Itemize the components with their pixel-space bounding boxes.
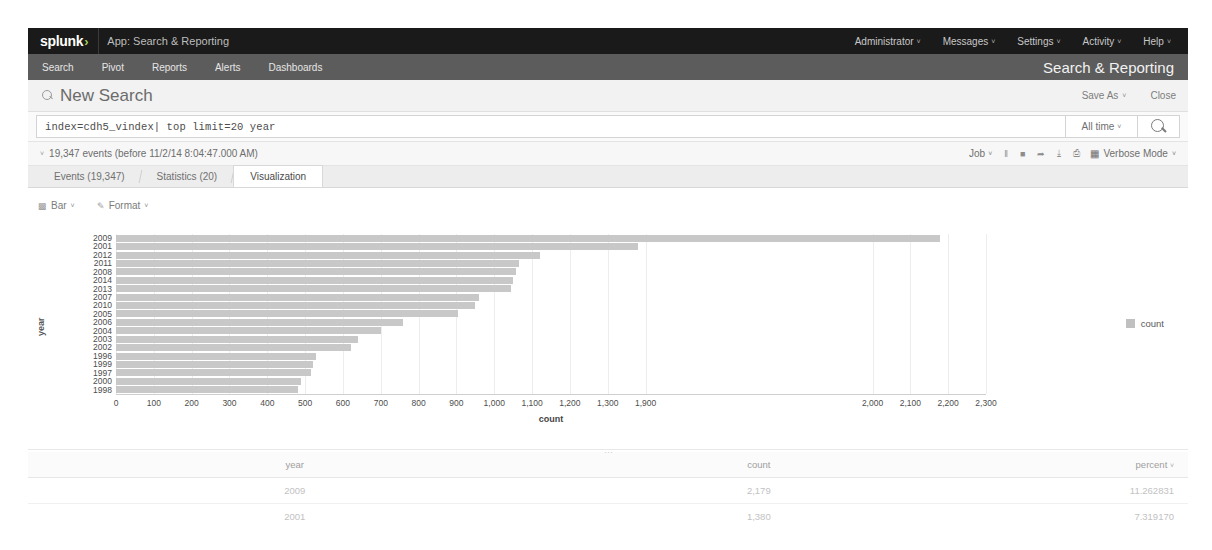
bar[interactable]: [116, 277, 513, 284]
x-axis-tick: 1,200: [559, 398, 580, 408]
nav-messages-label: Messages: [943, 36, 989, 47]
column-header-percent[interactable]: percent ˅: [956, 452, 1188, 478]
x-axis-tick: 800: [412, 398, 426, 408]
resize-handle[interactable]: ⋯: [604, 452, 613, 458]
bar-row: [116, 369, 986, 377]
chevron-down-icon: ˅: [1170, 462, 1174, 469]
bar[interactable]: [116, 361, 313, 368]
bar[interactable]: [116, 252, 540, 259]
bar[interactable]: [116, 369, 311, 376]
close-label: Close: [1150, 90, 1176, 101]
chevron-down-icon: ˅: [71, 202, 75, 209]
tab-visualization[interactable]: Visualization: [233, 165, 323, 187]
bar[interactable]: [116, 260, 519, 267]
bar[interactable]: [116, 294, 479, 301]
time-range-picker[interactable]: All time ˅: [1066, 115, 1138, 138]
bar-row: [116, 377, 986, 385]
subnav-item-pivot[interactable]: Pivot: [88, 54, 138, 80]
x-axis-tick: 1,900: [635, 398, 656, 408]
job-menu-button[interactable]: Job ˅: [969, 148, 992, 159]
cell-year: 2001: [28, 504, 562, 523]
event-count-text: 19,347 events (before 11/2/14 8:04:47.00…: [49, 148, 258, 159]
app-title: Search & Reporting: [1043, 59, 1188, 76]
bar[interactable]: [116, 319, 403, 326]
chart-type-label: Bar: [51, 200, 67, 211]
app-bar: splunk › App: Search & Reporting Adminis…: [28, 28, 1188, 54]
nav-administrator[interactable]: Administrator ˅: [844, 28, 932, 54]
bar-row: [116, 234, 986, 242]
splunk-search-page: splunk › App: Search & Reporting Adminis…: [0, 0, 1212, 550]
app-name-label[interactable]: App: Search & Reporting: [98, 28, 239, 54]
table-body: 20092,17911.26283120011,3807.319170: [28, 478, 1188, 523]
splunk-logo[interactable]: splunk ›: [28, 33, 98, 49]
chart-legend: count: [1126, 318, 1164, 329]
chevron-down-icon: ˅: [988, 150, 992, 157]
collapse-caret-icon[interactable]: ˅: [40, 150, 44, 157]
cell-percent: 7.319170: [956, 504, 1188, 523]
x-axis-tick: 400: [260, 398, 274, 408]
bar-row: [116, 276, 986, 284]
x-axis-tick: 1,000: [484, 398, 505, 408]
bar[interactable]: [116, 302, 475, 309]
column-header-year[interactable]: year: [28, 452, 562, 478]
close-button[interactable]: Close: [1138, 90, 1188, 101]
bar[interactable]: [116, 285, 511, 292]
export-icon[interactable]: ⤓: [1057, 148, 1061, 159]
logo-caret-icon: ›: [84, 34, 88, 49]
bar-row: [116, 293, 986, 301]
save-as-button[interactable]: Save As ˅: [1070, 90, 1139, 101]
x-axis-tick: 600: [336, 398, 350, 408]
job-label: Job: [969, 148, 985, 159]
grid-icon: ▦: [1090, 148, 1099, 159]
bar[interactable]: [116, 336, 358, 343]
search-bar-row: index=cdh5_vindex| top limit=20 year All…: [28, 112, 1188, 142]
results-tabs: Events (19,347) Statistics (20) Visualiz…: [28, 166, 1188, 188]
tab-statistics[interactable]: Statistics (20): [141, 166, 234, 187]
x-axis-tick-labels: 01002003004005006007008009001,0001,1001,…: [116, 398, 986, 410]
legend-swatch: [1126, 319, 1135, 328]
pause-icon[interactable]: ‖: [1004, 149, 1008, 159]
nav-settings[interactable]: Settings ˅: [1006, 28, 1071, 54]
bar[interactable]: [116, 344, 351, 351]
logo-text: splunk: [40, 33, 83, 49]
x-axis-tick: 1,100: [521, 398, 542, 408]
x-axis-tick: 0: [114, 398, 119, 408]
chart-format-button[interactable]: ✎ Format ˅: [97, 200, 149, 211]
chevron-down-icon: ˅: [1167, 38, 1171, 45]
search-query-input[interactable]: index=cdh5_vindex| top limit=20 year: [36, 115, 1066, 138]
x-axis-tick: 900: [449, 398, 463, 408]
table-row[interactable]: 20011,3807.319170: [28, 504, 1188, 523]
bar-row: [116, 335, 986, 343]
subnav-item-alerts[interactable]: Alerts: [201, 54, 255, 80]
run-search-button[interactable]: [1138, 115, 1180, 138]
subnav-item-search[interactable]: Search: [28, 54, 88, 80]
bar[interactable]: [116, 310, 458, 317]
table-row[interactable]: 20092,17911.262831: [28, 478, 1188, 504]
nav-activity[interactable]: Activity ˅: [1072, 28, 1133, 54]
bar[interactable]: [116, 353, 316, 360]
x-axis-tick: 700: [374, 398, 388, 408]
bar-series: [116, 234, 986, 394]
search-mode-button[interactable]: ▦ Verbose Mode ˅: [1090, 148, 1188, 159]
y-axis-tick-labels: 2009200120122011200820142013200720102005…: [56, 234, 112, 394]
nav-activity-label: Activity: [1083, 36, 1115, 47]
chevron-down-icon: ˅: [991, 38, 995, 45]
share-icon[interactable]: ➦: [1037, 149, 1045, 159]
subnav-item-dashboards[interactable]: Dashboards: [255, 54, 337, 80]
bar[interactable]: [116, 235, 940, 242]
stop-icon[interactable]: ■: [1020, 149, 1025, 159]
subnav-item-reports[interactable]: Reports: [138, 54, 201, 80]
chart-type-button[interactable]: ▩ Bar ˅: [38, 200, 75, 211]
bar[interactable]: [116, 327, 381, 334]
bar[interactable]: [116, 243, 638, 250]
chevron-down-icon: ˅: [917, 38, 921, 45]
print-icon[interactable]: ⎙: [1073, 148, 1080, 159]
bar[interactable]: [116, 268, 516, 275]
search-icon: [1151, 119, 1166, 134]
tab-events[interactable]: Events (19,347): [38, 166, 141, 187]
bar[interactable]: [116, 378, 301, 385]
column-header-count[interactable]: count: [562, 452, 956, 478]
bar[interactable]: [116, 386, 298, 393]
nav-messages[interactable]: Messages ˅: [932, 28, 1007, 54]
nav-help[interactable]: Help ˅: [1132, 28, 1182, 54]
